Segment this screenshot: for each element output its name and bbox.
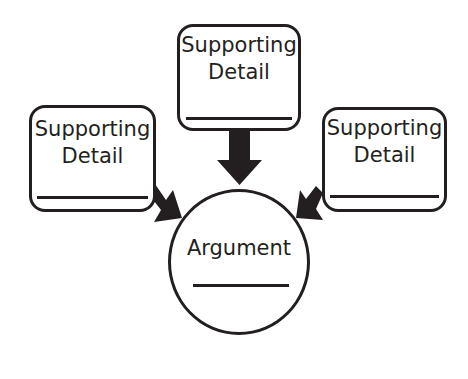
box-label-line2: Detail [32,143,153,170]
supporting-detail-box-top: Supporting Detail [177,24,301,131]
box-label-line1: Supporting [180,32,298,59]
argument-circle: Argument [168,189,310,335]
argument-label: Argument [171,235,307,261]
arrow-down-icon [217,130,262,185]
fill-in-blank-line[interactable] [193,284,289,287]
box-label-line1: Supporting [32,116,153,143]
fill-in-blank-line[interactable] [186,117,292,120]
box-label-line1: Supporting [325,115,444,142]
fill-in-blank-line[interactable] [37,196,148,199]
supporting-detail-box-right: Supporting Detail [322,107,447,212]
box-label-line2: Detail [180,59,298,86]
fill-in-blank-line[interactable] [330,195,439,198]
supporting-detail-box-left: Supporting Detail [29,105,156,212]
arrow-down-left-icon [296,186,323,220]
box-label-line2: Detail [325,142,444,169]
